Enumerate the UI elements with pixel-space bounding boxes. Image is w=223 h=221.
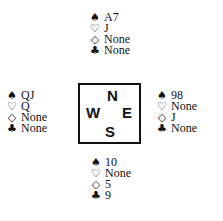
north-clubs: None [102,45,130,56]
west-hand: ♠ QJ ♡ Q ◇ None ♣ None [5,90,47,134]
compass-box: N W E S [78,83,141,144]
south-hand: ♠ 10 ♡ None ◇ 5 ♣ 9 [89,157,131,201]
east-clubs-row: ♣ None [155,123,197,134]
south-clubs-row: ♣ 9 [89,190,131,201]
north-clubs-row: ♣ None [88,45,130,56]
west-clubs-row: ♣ None [5,123,47,134]
compass-north-label: N [107,88,118,103]
north-hand: ♠ A7 ♡ J ◇ None ♣ None [88,12,130,56]
east-clubs: None [169,123,197,134]
club-icon: ♣ [88,45,102,56]
compass-west-label: W [86,105,100,120]
club-icon: ♣ [89,190,103,201]
club-icon: ♣ [155,123,169,134]
east-hand: ♠ 98 ♡ None ◇ J ♣ None [155,90,197,134]
compass-east-label: E [122,105,132,120]
compass-south-label: S [105,124,115,139]
south-clubs: 9 [103,190,111,201]
west-clubs: None [19,123,47,134]
club-icon: ♣ [5,123,19,134]
